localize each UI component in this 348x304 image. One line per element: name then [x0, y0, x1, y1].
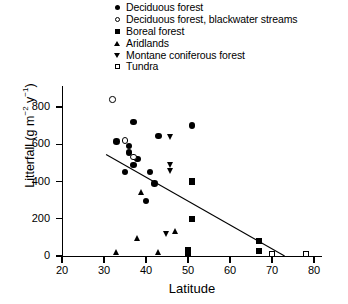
data-point-filled-square	[189, 216, 195, 222]
data-point-filled-circle	[143, 198, 149, 204]
data-point-filled-triangle-up	[113, 249, 119, 255]
data-point-filled-triangle-up	[134, 235, 140, 241]
data-point-open-circle	[109, 96, 115, 102]
data-point-filled-circle	[122, 169, 128, 175]
data-point-filled-square	[189, 178, 195, 184]
data-point-filled-circle	[126, 143, 132, 149]
data-point-filled-triangle-up	[138, 189, 144, 195]
data-point-filled-triangle-up	[172, 228, 178, 234]
data-point-open-square	[303, 251, 309, 257]
data-point-filled-square	[256, 248, 262, 254]
data-point-filled-circle	[113, 138, 119, 144]
data-point-filled-circle	[130, 162, 136, 168]
data-point-filled-circle	[189, 122, 195, 128]
litterfall-latitude-scatter-figure: Deciduous forestDeciduous forest, blackw…	[0, 0, 348, 304]
data-point-filled-circle	[147, 169, 153, 175]
data-point-filled-circle	[151, 180, 157, 186]
data-point-filled-triangle-up	[155, 249, 161, 255]
data-point-filled-square	[256, 238, 262, 244]
data-point-filled-triangle-down	[167, 168, 173, 174]
data-point-open-circle	[130, 154, 136, 160]
data-point-filled-triangle-down	[167, 134, 173, 140]
data-point-filled-triangle-down	[163, 231, 169, 237]
plot-area: 020040060080020304050607080 Litterfall (…	[0, 0, 348, 304]
data-point-filled-circle	[130, 119, 136, 125]
data-point-open-circle	[122, 137, 128, 143]
data-point-open-square	[269, 251, 275, 257]
data-point-filled-triangle-down	[167, 162, 173, 168]
data-points-layer	[0, 0, 348, 304]
data-point-filled-circle	[155, 133, 161, 139]
data-point-filled-square	[185, 251, 191, 257]
